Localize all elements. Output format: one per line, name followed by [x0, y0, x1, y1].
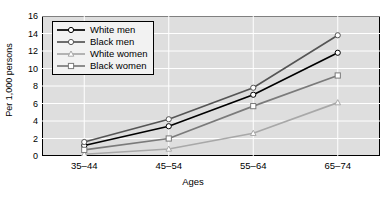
y-axis-tick-label: 14	[28, 29, 38, 38]
data-point-marker	[251, 85, 256, 90]
legend-item: White men	[56, 24, 148, 36]
line-chart: Per 1,000 persons 0246810121416 35–4445–…	[0, 0, 386, 198]
data-point-marker	[68, 39, 73, 44]
y-axis-tick-label: 2	[33, 134, 38, 143]
y-axis-tick-label: 6	[33, 99, 38, 108]
data-point-marker	[251, 104, 256, 109]
y-axis-tick-label: 12	[28, 47, 38, 56]
data-point-marker	[166, 117, 171, 122]
legend-marker-circle-icon	[56, 24, 86, 36]
y-axis-tick-label: 8	[33, 82, 38, 91]
legend-marker-square-icon	[56, 60, 86, 72]
data-point-marker	[68, 51, 74, 56]
data-point-marker	[335, 33, 340, 38]
legend-label: White women	[90, 48, 148, 60]
data-point-marker	[335, 73, 340, 78]
data-point-marker	[82, 147, 87, 152]
legend-marker-triangle-icon	[56, 48, 86, 60]
x-axis-tick-label: 45–54	[156, 160, 182, 171]
series-white-women	[81, 100, 340, 156]
x-axis-tick-labels: 35–4445–5455–6465–74	[42, 160, 382, 174]
data-point-marker	[166, 146, 172, 151]
x-axis-title: Ages	[0, 176, 386, 187]
data-point-marker	[166, 124, 171, 129]
y-axis-tick-labels: 0246810121416	[18, 12, 40, 157]
y-axis-title-text: Per 1,000 persons	[4, 43, 14, 117]
x-axis-tick-label: 55–64	[240, 160, 266, 171]
data-point-marker	[335, 50, 340, 55]
data-point-marker	[250, 130, 256, 135]
data-point-marker	[68, 27, 73, 32]
data-point-marker	[82, 139, 87, 144]
legend-item: White women	[56, 48, 148, 60]
x-axis-tick-label: 65–74	[325, 160, 351, 171]
legend-label: White men	[90, 24, 135, 36]
legend-label: Black women	[90, 60, 147, 72]
data-point-marker	[68, 63, 73, 68]
legend-marker-circle-icon	[56, 36, 86, 48]
y-axis-tick-label: 4	[33, 117, 38, 126]
data-point-marker	[166, 136, 171, 141]
x-axis-tick-label: 35–44	[71, 160, 97, 171]
y-axis-tick-label: 16	[28, 12, 38, 21]
data-point-marker	[335, 100, 341, 105]
legend-item: Black men	[56, 36, 148, 48]
y-axis-tick-label: 10	[28, 64, 38, 73]
y-axis-title: Per 1,000 persons	[0, 0, 18, 160]
data-point-marker	[251, 92, 256, 97]
legend-label: Black men	[90, 36, 134, 48]
legend-item: Black women	[56, 60, 148, 72]
chart-legend: White menBlack menWhite womenBlack women	[52, 21, 154, 75]
y-axis-tick-label: 0	[33, 152, 38, 161]
